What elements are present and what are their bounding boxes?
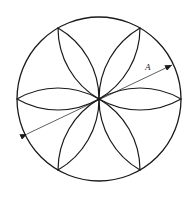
petal	[17, 88, 99, 110]
petals	[17, 28, 181, 170]
dimension-label: A	[145, 62, 151, 72]
dimension-line	[27, 65, 172, 134]
petal	[99, 88, 181, 110]
rosette-diagram	[0, 0, 194, 198]
